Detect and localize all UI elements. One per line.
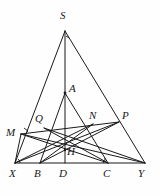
segment-BP (40, 122, 119, 163)
point-label-D: D (59, 168, 67, 179)
point-label-C: C (103, 168, 110, 179)
point-label-P: P (122, 110, 129, 121)
point-label-A: A (69, 83, 76, 94)
geometry-canvas (0, 0, 160, 196)
segment-SY (65, 31, 145, 163)
point-label-S: S (60, 10, 66, 21)
point-label-Y: Y (138, 168, 144, 179)
point-label-H: H (67, 146, 75, 157)
point-label-Q: Q (35, 113, 43, 124)
point-label-B: B (34, 168, 41, 179)
geometry-figure: S A P N Q M H X B D C Y (0, 0, 160, 196)
segment-SX (15, 31, 65, 163)
segments-group (15, 31, 145, 163)
vertex-dot-H (64, 149, 66, 151)
vertex-dot-A (64, 92, 67, 95)
point-label-N: N (89, 110, 96, 121)
point-label-X: X (9, 168, 16, 179)
segment-MY (21, 134, 145, 163)
point-label-M: M (6, 127, 15, 138)
